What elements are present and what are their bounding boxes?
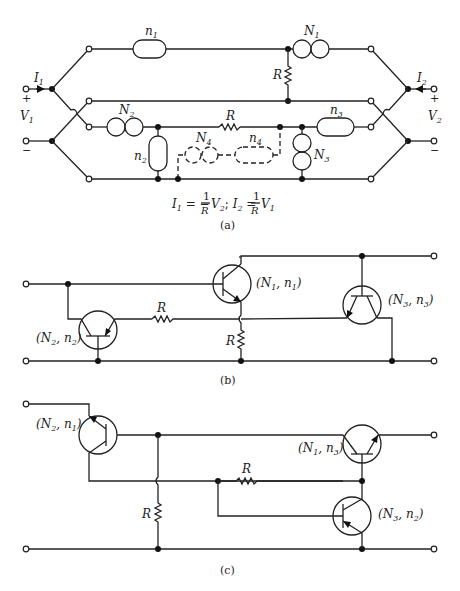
resistor-r-vertical	[238, 302, 244, 361]
open-node	[368, 98, 374, 104]
junction-dot	[389, 358, 395, 364]
resistor-r-horizontal	[152, 316, 240, 322]
label-minus-left: −	[22, 144, 31, 157]
label-n2: n2	[134, 149, 147, 165]
nullator-n1	[133, 40, 166, 58]
equation-a: I1 = − 1 R V2; I2 = 1 R V1	[171, 190, 275, 216]
junction-dot	[155, 176, 161, 182]
label-v2: V2	[428, 109, 442, 125]
norator-n2-left	[107, 118, 125, 136]
svg-text:R: R	[200, 205, 209, 216]
open-node	[368, 124, 374, 130]
caption-b: (b)	[220, 374, 236, 387]
terminal	[431, 253, 437, 259]
panel-b: (N2, n2) (N1, n1) (N3, n3) R R (b)	[23, 253, 437, 387]
open-node	[368, 46, 374, 52]
nullator-n3	[317, 118, 354, 136]
open-node	[86, 124, 92, 130]
transistor-n1-n3	[343, 425, 381, 500]
junction-dot	[359, 253, 365, 259]
svg-text:1: 1	[203, 190, 210, 203]
label-N1: N1	[303, 24, 320, 40]
open-node	[86, 176, 92, 182]
open-node	[86, 46, 92, 52]
norator-n3-top	[293, 134, 311, 152]
terminal	[23, 358, 29, 364]
label-r-horizontal: R	[225, 109, 235, 123]
label-N2: N2	[118, 103, 135, 119]
wire	[371, 49, 408, 89]
transistor-n2-n1	[79, 416, 117, 454]
wire	[29, 404, 89, 416]
norator-n1-left	[293, 40, 311, 58]
dashed-wire	[273, 127, 280, 155]
terminal	[431, 546, 437, 552]
label-r-horizontal: R	[241, 462, 251, 476]
resistor-r-horizontal	[219, 124, 240, 130]
label-N3: N3	[313, 148, 330, 164]
terminal	[23, 401, 29, 407]
label-i2: I2	[416, 71, 427, 87]
label-minus-right: −	[430, 144, 439, 157]
norator-n3-bottom	[293, 152, 311, 170]
circuit-figure: I1 + V1 − I2 + V2 − n1 N1 R R N2 n2 N4 n…	[0, 0, 460, 591]
terminal-minus-right	[431, 138, 437, 144]
label-v1: V1	[20, 109, 34, 125]
junction-dot	[359, 478, 365, 484]
dashed-wire	[178, 155, 184, 179]
svg-text:V2; I2 =: V2; I2 =	[211, 197, 256, 213]
wire	[241, 318, 347, 319]
resistor-r-vertical	[155, 435, 161, 549]
label-plus-left: +	[22, 92, 31, 105]
transistor-n3-n2	[333, 497, 371, 549]
svg-text:V1: V1	[261, 197, 275, 213]
terminal	[431, 358, 437, 364]
label-r-horizontal: R	[156, 301, 166, 315]
label-t-n2-n2: (N2, n2)	[36, 331, 82, 347]
terminal	[23, 281, 29, 287]
open-node	[86, 98, 92, 104]
norator-n4-right	[202, 147, 218, 163]
norator-n4-left	[185, 147, 201, 163]
terminal	[23, 546, 29, 552]
terminal-plus-right	[431, 86, 437, 92]
wire-mid	[89, 453, 343, 481]
panel-c: (N2, n1) (N1, n3) (N3, n2) R R (c)	[23, 401, 437, 577]
terminal	[431, 432, 437, 438]
svg-text:1: 1	[253, 190, 260, 203]
junction-dot	[299, 176, 305, 182]
nullator-n2	[149, 136, 167, 171]
junction-dot	[238, 358, 244, 364]
wire	[377, 318, 392, 361]
terminal-plus-left	[23, 86, 29, 92]
label-t-n1-n3: (N1, n3)	[298, 441, 344, 457]
label-t-n3-n3: (N3, n3)	[388, 293, 434, 309]
junction-dot	[175, 176, 181, 182]
wire	[52, 49, 89, 89]
transistor-n2-n2	[68, 284, 152, 361]
junction-dot	[155, 546, 161, 552]
label-n3: n3	[330, 103, 343, 119]
norator-n1-right	[311, 40, 329, 58]
label-n4: n4	[249, 131, 262, 147]
label-r-vertical: R	[141, 507, 151, 521]
label-t-n3-n2: (N3, n2)	[378, 507, 424, 523]
label-r-vertical: R	[225, 334, 235, 348]
open-node	[368, 176, 374, 182]
caption-a: (a)	[220, 219, 235, 232]
nullator-n4	[235, 147, 273, 163]
label-n1: n1	[145, 24, 158, 40]
wire	[218, 481, 343, 516]
wire	[371, 141, 408, 179]
label-t-n1-n1: (N1, n1)	[256, 276, 302, 292]
wire-top-output	[241, 256, 432, 264]
svg-text:R: R	[250, 205, 259, 216]
label-r-vertical: R	[272, 68, 282, 82]
resistor-r-vertical	[285, 49, 291, 101]
wire	[52, 141, 89, 179]
label-N4: N4	[195, 131, 212, 147]
label-t-n2-n1: (N2, n1)	[36, 417, 82, 433]
label-plus-right: +	[430, 92, 439, 105]
junction-dot	[95, 358, 101, 364]
norator-n2-right	[125, 118, 143, 136]
